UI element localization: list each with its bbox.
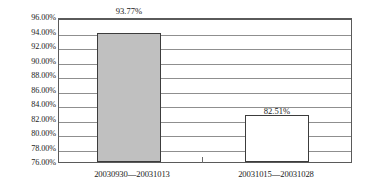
plot-area: 93.77% 82.51% xyxy=(58,18,352,163)
x-axis-category-divider-tick xyxy=(202,157,203,163)
y-axis-tick-label: 84.00% xyxy=(0,100,56,109)
y-axis-tick-label: 82.00% xyxy=(0,115,56,124)
y-axis-tick-label: 92.00% xyxy=(0,42,56,51)
y-axis-tick-label: 90.00% xyxy=(0,57,56,66)
y-axis-tick-label: 78.00% xyxy=(0,144,56,153)
x-axis-tick-label-0: 20030930—20031013 xyxy=(52,168,212,180)
y-axis-tick-label: 80.00% xyxy=(0,129,56,138)
bar-chart: 96.00% 94.00% 92.00% 90.00% 88.00% 86.00… xyxy=(0,0,371,193)
bar-value-label-1: 82.51% xyxy=(237,106,317,116)
y-axis-tick-label: 76.00% xyxy=(0,158,56,167)
bar-value-label-0: 93.77% xyxy=(89,6,169,16)
y-axis-tick-label: 94.00% xyxy=(0,28,56,37)
y-axis-tick-label: 88.00% xyxy=(0,71,56,80)
y-axis-label-group: 96.00% 94.00% 92.00% 90.00% 88.00% 86.00… xyxy=(0,18,56,163)
y-axis-tick-label: 96.00% xyxy=(0,13,56,22)
y-axis-tick-label: 86.00% xyxy=(0,86,56,95)
bar-series-0-category-1 xyxy=(245,115,309,162)
x-axis-label-group: 20030930—20031013 20031015—20031028 xyxy=(58,168,352,184)
bar-series-0-category-0 xyxy=(97,33,161,162)
x-axis-tick-label-1: 20031015—20031028 xyxy=(196,168,356,180)
